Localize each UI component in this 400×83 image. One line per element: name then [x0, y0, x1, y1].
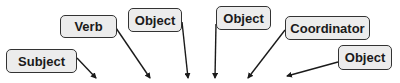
object-label-2: Object [223, 12, 263, 25]
arrow-from-object2 [215, 24, 216, 78]
verb-label-box: Verb [60, 15, 117, 38]
subject-label: Subject [18, 55, 65, 68]
arrow-from-subject [77, 58, 96, 78]
subject-label-box: Subject [6, 49, 77, 73]
arrow-from-verb [116, 28, 150, 78]
object-label-box-2: Object [216, 6, 271, 30]
coordinator-label: Coordinator [290, 22, 364, 35]
arrow-from-object1 [182, 22, 188, 78]
verb-label: Verb [74, 20, 102, 33]
object-label-box-1: Object [128, 8, 182, 32]
object-label-box-3: Object [338, 45, 392, 70]
object-label-3: Object [345, 51, 385, 64]
arrow-from-object3 [287, 62, 338, 76]
coordinator-label-box: Coordinator [285, 16, 370, 40]
arrow-from-coordinator [248, 30, 285, 78]
diagram-canvas: Subject Verb Object Object Coordinator O… [0, 0, 400, 83]
object-label-1: Object [135, 14, 175, 27]
